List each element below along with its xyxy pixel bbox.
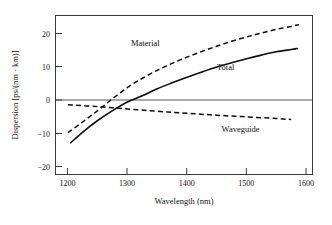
y-tick-label-20: 20 xyxy=(42,30,50,39)
y-tick-label-0: 0 xyxy=(46,96,50,105)
y-tick-label-minus-20: −20 xyxy=(37,163,50,172)
y-axis-title: Dispersion [ps/(nm · km)] xyxy=(10,50,20,139)
annotation-waveguide: Waveguide xyxy=(222,124,260,134)
x-tick-label-1400: 1400 xyxy=(179,179,195,188)
dispersion-vs-wavelength-chart: 20 10 0 −10 −20 1200 1300 1400 1500 1600… xyxy=(0,0,332,225)
x-tick-label-1600: 1600 xyxy=(298,179,314,188)
y-tick-label-10: 10 xyxy=(42,63,50,72)
x-tick-label-1500: 1500 xyxy=(238,179,254,188)
y-tick-label-minus-10: −10 xyxy=(37,130,50,139)
annotation-total: Total xyxy=(217,62,235,72)
x-tick-label-1300: 1300 xyxy=(119,179,135,188)
x-axis-title: Wavelength (nm) xyxy=(154,196,213,206)
x-tick-label-1200: 1200 xyxy=(59,179,75,188)
annotation-material: Material xyxy=(131,38,160,48)
